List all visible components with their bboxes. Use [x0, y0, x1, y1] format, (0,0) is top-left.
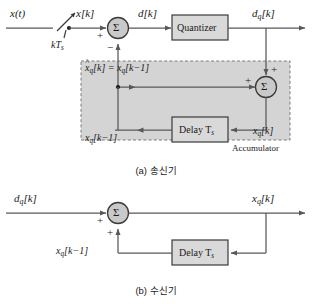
label-xk: x[k] [76, 8, 94, 19]
quantizer-label: Quantizer [177, 22, 216, 33]
sampler-stem [64, 30, 66, 38]
sum-node-2-sigma: Σ [261, 81, 267, 92]
label-rx-output-xqk: xq[k] [252, 193, 274, 206]
label-dqk: dq[k] [252, 8, 275, 21]
delay-label-transmitter: Delay Ts [179, 124, 214, 137]
label-sampler-kts: kTs [51, 40, 64, 52]
caption-receiver: (b) 수신기 [0, 283, 312, 297]
rx-plus-left-sign: + [97, 215, 103, 226]
caption-transmitter: (a) 송신기 [0, 163, 312, 177]
rx-plus-bottom-sign: + [107, 227, 113, 238]
sum2-plus-left-sign: + [245, 75, 251, 86]
sum-node-1-sigma: Σ [113, 22, 119, 33]
figure-root: x(t) kTs x[k] d[k] Quantizer dq[k] ^xq[k… [0, 0, 312, 304]
label-xq-k-minus-1-tx: xq[k−1] [85, 133, 117, 145]
sum-node-receiver-sigma: Σ [113, 207, 119, 218]
sum2-plus-top-sign: + [271, 64, 277, 75]
label-xq-k-tx: xq[k] [253, 126, 273, 138]
accumulator-label: Accumulator [232, 143, 279, 153]
label-rx-feedback: xq[k−1] [56, 246, 88, 258]
label-input-xt: x(t) [10, 8, 25, 19]
label-rx-input-dqk: dq[k] [14, 193, 37, 206]
label-predictor-equation: ^xq[k] = xq[k−1] [85, 63, 149, 75]
label-dk: d[k] [138, 8, 157, 19]
sum1-plus-sign: + [97, 30, 103, 41]
delay-label-receiver: Delay Ts [179, 247, 214, 260]
sum1-minus-sign: − [107, 42, 113, 53]
